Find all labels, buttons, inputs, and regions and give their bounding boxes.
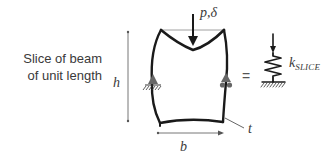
deformed-cross-section: [152, 30, 227, 126]
width-dimension-arrow: [158, 131, 224, 136]
load-label: p,δ: [200, 6, 217, 20]
height-label: h: [113, 76, 120, 90]
spring-stiffness-label: kSLICE: [289, 56, 320, 74]
width-label: b: [180, 140, 187, 154]
thickness-leader-line: [225, 118, 244, 128]
thickness-label: t: [248, 122, 252, 136]
spring-icon: [261, 34, 285, 87]
stiffness-subscript: SLICE: [295, 62, 320, 72]
equals-sign: =: [242, 68, 250, 84]
beam-slice-diagram: [0, 0, 332, 158]
